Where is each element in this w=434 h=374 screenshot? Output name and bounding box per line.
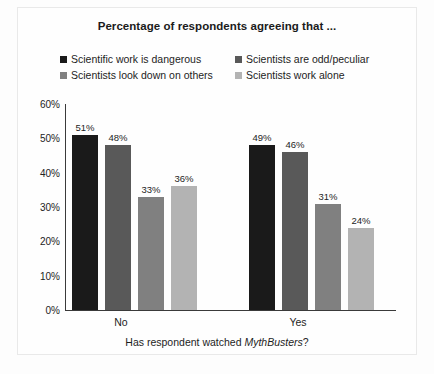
bar-value-label: 46%	[275, 139, 315, 150]
bar-column: 36%	[171, 104, 197, 310]
bar[interactable]	[348, 228, 374, 310]
bar[interactable]	[282, 152, 308, 310]
bar-column: 48%	[105, 104, 131, 310]
y-axis-tick-label: 30%	[26, 202, 60, 213]
legend-swatch-icon	[235, 72, 242, 79]
bar[interactable]	[72, 135, 98, 310]
legend-swatch-icon	[60, 72, 67, 79]
bar[interactable]	[315, 204, 341, 310]
x-axis-title-prefix: Has respondent watched	[125, 336, 244, 348]
bar-value-label: 24%	[341, 215, 381, 226]
bar-column: 51%	[72, 104, 98, 310]
legend-label: Scientists are odd/peculiar	[246, 53, 369, 65]
bar-group-yes: 49%46%31%24%	[249, 104, 381, 310]
y-axis-tick-label: 60%	[26, 99, 60, 110]
bar-group-no: 51%48%33%36%	[72, 104, 204, 310]
legend-label: Scientific work is dangerous	[71, 53, 201, 65]
bar[interactable]	[105, 145, 131, 310]
x-axis-line	[65, 310, 396, 311]
chart-title: Percentage of respondents agreeing that …	[17, 20, 417, 32]
legend-item-scientists-are-odd-peculiar[interactable]: Scientists are odd/peculiar	[235, 53, 380, 65]
bar-column: 31%	[315, 104, 341, 310]
x-axis-category-label-yes: Yes	[253, 316, 343, 328]
legend-label: Scientists work alone	[246, 69, 345, 81]
y-axis-tick-label: 0%	[26, 305, 60, 316]
bar-value-label: 48%	[98, 132, 138, 143]
legend-swatch-icon	[235, 56, 242, 63]
x-axis-title-italic-term: MythBusters	[244, 336, 302, 348]
plot-area: 51%48%33%36%49%46%31%24%	[66, 104, 396, 310]
bar-value-label: 31%	[308, 191, 348, 202]
chart-legend: Scientific work is dangerous Scientists …	[60, 51, 380, 83]
bar-value-label: 36%	[164, 173, 204, 184]
legend-label: Scientists look down on others	[71, 69, 213, 81]
bar-column: 46%	[282, 104, 308, 310]
bar-column: 33%	[138, 104, 164, 310]
y-axis-tick-label: 20%	[26, 236, 60, 247]
x-axis-title: Has respondent watched MythBusters?	[17, 336, 417, 348]
bar-column: 49%	[249, 104, 275, 310]
legend-item-scientists-work-alone[interactable]: Scientists work alone	[235, 69, 380, 81]
chart-figure: Percentage of respondents agreeing that …	[0, 0, 434, 374]
bar[interactable]	[249, 145, 275, 310]
y-axis-tick-label: 40%	[26, 167, 60, 178]
bar-value-label: 33%	[131, 184, 171, 195]
bar[interactable]	[138, 197, 164, 310]
x-axis-category-label-no: No	[76, 316, 166, 328]
bar-column: 24%	[348, 104, 374, 310]
y-axis-tick-label: 10%	[26, 270, 60, 281]
bar[interactable]	[171, 186, 197, 310]
legend-item-scientific-work-is-dangerous[interactable]: Scientific work is dangerous	[60, 53, 235, 65]
legend-item-scientists-look-down-on-others[interactable]: Scientists look down on others	[60, 69, 235, 81]
legend-swatch-icon	[60, 56, 67, 63]
y-axis-tick-label: 50%	[26, 133, 60, 144]
y-axis-tick-labels: 0%10%20%30%40%50%60%	[22, 104, 60, 311]
x-axis-title-suffix: ?	[303, 336, 309, 348]
